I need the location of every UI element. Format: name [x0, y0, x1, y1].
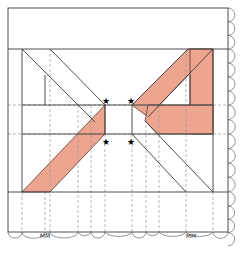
right-ruler-label: MM	[186, 232, 196, 239]
right-edge-arcs	[228, 8, 235, 246]
star-icon: ★	[102, 137, 110, 147]
shaded-pieces	[22, 49, 213, 192]
star-icon: ★	[127, 137, 135, 147]
left-diagonal-strip	[22, 105, 105, 192]
left-ruler-label: MM	[40, 232, 50, 239]
star-markers: ★ ★ ★ ★	[102, 96, 135, 147]
quilt-diagram: ★ ★ ★ ★ MM MM	[0, 0, 241, 253]
star-icon: ★	[102, 96, 110, 106]
star-icon: ★	[127, 96, 135, 106]
center-square	[105, 105, 132, 134]
